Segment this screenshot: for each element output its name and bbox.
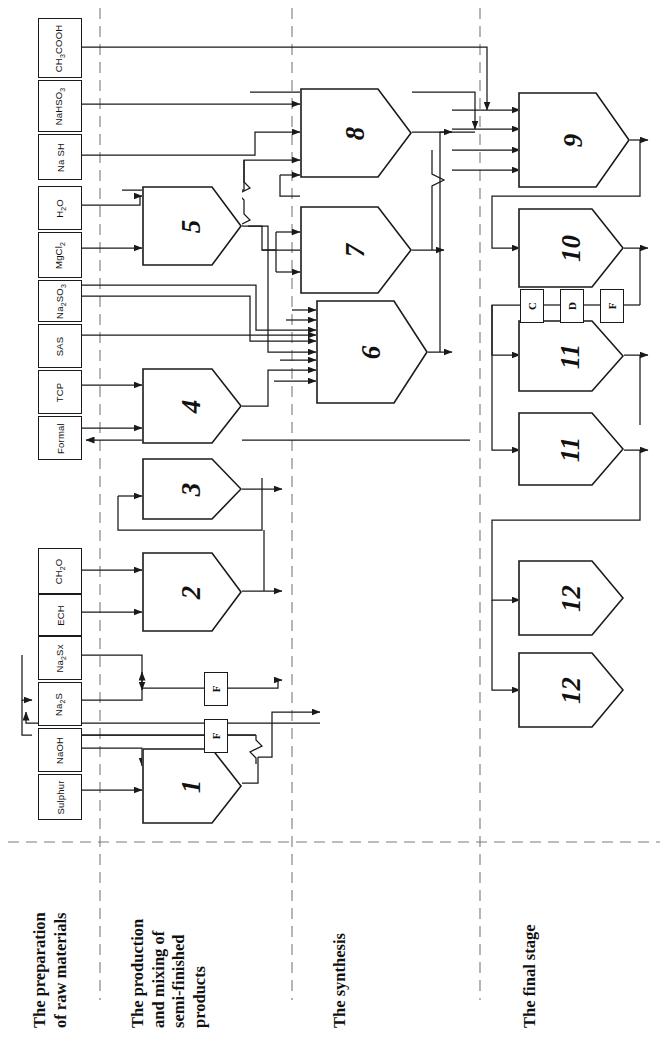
reagent-label: CH3COOH bbox=[54, 24, 67, 72]
marker-label: F bbox=[210, 733, 222, 740]
reagent-label: MgCl2 bbox=[54, 241, 67, 268]
reagent-label: Na2S bbox=[54, 692, 67, 715]
process-unit-2: 2 bbox=[142, 552, 242, 632]
marker-box-d: D bbox=[560, 289, 584, 323]
reagent-label: SAS bbox=[54, 336, 65, 356]
reagent-box-h2o: H2O bbox=[38, 186, 82, 230]
unit-number: 1 bbox=[177, 779, 208, 793]
reagent-label: Na SH bbox=[54, 143, 65, 172]
unit-number: 3 bbox=[177, 482, 208, 496]
stage-caption-3: The synthesis bbox=[330, 1028, 425, 1049]
reagent-box-tcp: TCP bbox=[38, 370, 82, 414]
marker-box-f2: F bbox=[204, 719, 228, 753]
unit-number: 8 bbox=[341, 126, 372, 140]
process-unit-12b: 12 bbox=[518, 652, 624, 728]
marker-label: C bbox=[526, 302, 538, 310]
reagent-box-naoh: NaOH bbox=[38, 728, 82, 772]
unit-number: 5 bbox=[177, 219, 208, 233]
stage-caption-text: The final stage bbox=[520, 924, 541, 1028]
unit-number: 12 bbox=[556, 585, 587, 612]
reagent-label: Formal bbox=[54, 423, 65, 454]
stage-caption-2: The production and mixing of semi-finish… bbox=[128, 1028, 237, 1049]
process-unit-11a: 11 bbox=[518, 320, 624, 392]
reagent-label: Na2Sx bbox=[54, 644, 67, 672]
process-unit-9: 9 bbox=[518, 92, 630, 188]
reagent-box-nahso3: NaHSO3 bbox=[38, 80, 82, 132]
marker-box-c: C bbox=[520, 289, 544, 323]
marker-label: F bbox=[210, 686, 222, 693]
flow-diagram-canvas: CH3COOH NaHSO3 Na SH H2O MgCl2 Na2SO3 SA… bbox=[0, 0, 669, 1049]
process-unit-3: 3 bbox=[142, 458, 242, 520]
marker-box-f3: F bbox=[600, 289, 624, 323]
reagent-label: NaHSO3 bbox=[54, 87, 67, 125]
reagent-box-mgcl2: MgCl2 bbox=[38, 232, 82, 278]
unit-number: 11 bbox=[555, 436, 586, 462]
marker-label: D bbox=[566, 302, 578, 310]
stage-caption-text: The synthesis bbox=[330, 933, 351, 1028]
reagent-label: H2O bbox=[54, 199, 67, 218]
reagent-label: TCP bbox=[54, 382, 65, 402]
process-unit-8: 8 bbox=[300, 88, 412, 178]
stage-caption-text: The production and mixing of semi-finish… bbox=[128, 919, 211, 1028]
process-unit-6: 6 bbox=[316, 300, 428, 404]
unit-number: 11 bbox=[555, 343, 586, 369]
unit-number: 4 bbox=[177, 399, 208, 413]
reagent-label: NaOH bbox=[54, 736, 65, 763]
reagent-box-sas: SAS bbox=[38, 324, 82, 368]
marker-label: F bbox=[606, 303, 618, 310]
process-unit-5: 5 bbox=[142, 186, 242, 266]
reagent-label: Sulphur bbox=[55, 780, 66, 814]
process-unit-10: 10 bbox=[518, 208, 624, 288]
unit-number: 2 bbox=[177, 585, 208, 599]
reagent-label: ECH bbox=[54, 605, 65, 626]
reagent-box-na2sx: Na2Sx bbox=[38, 636, 82, 680]
reagent-box-na2so3: Na2SO3 bbox=[38, 280, 82, 322]
reagent-box-sulphur: Sulphur bbox=[38, 774, 82, 820]
reagent-label: Na2SO3 bbox=[54, 284, 67, 319]
unit-number: 12 bbox=[556, 677, 587, 704]
process-unit-11b: 11 bbox=[518, 412, 624, 486]
reagent-box-ech: ECH bbox=[38, 594, 82, 636]
unit-number: 6 bbox=[357, 345, 388, 359]
process-unit-1: 1 bbox=[142, 748, 242, 824]
reagent-box-ch2o: CH2O bbox=[38, 548, 82, 594]
reagent-box-formal: Formal bbox=[38, 416, 82, 460]
marker-box-f1: F bbox=[204, 672, 228, 706]
process-unit-12a: 12 bbox=[518, 560, 624, 636]
process-unit-7: 7 bbox=[300, 206, 412, 294]
reagent-box-na2s: Na2S bbox=[38, 682, 82, 726]
unit-number: 7 bbox=[341, 243, 372, 257]
stage-caption-text: The preparation of raw materials bbox=[30, 912, 71, 1028]
reagent-box-ch3cooh: CH3COOH bbox=[38, 18, 82, 78]
unit-number: 9 bbox=[559, 133, 590, 147]
process-unit-4: 4 bbox=[142, 368, 242, 444]
reagent-label: CH2O bbox=[54, 558, 67, 584]
reagent-box-nash: Na SH bbox=[38, 134, 82, 180]
unit-number: 10 bbox=[556, 235, 587, 262]
stage-caption-4: The final stage bbox=[520, 1028, 624, 1049]
